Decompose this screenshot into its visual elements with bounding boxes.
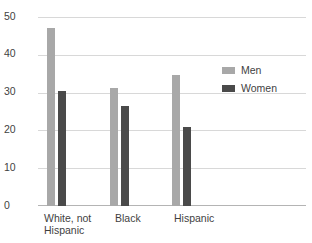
- y-tick-label-0: 0: [4, 200, 32, 211]
- legend-item-men[interactable]: Men: [222, 64, 277, 76]
- y-tick-label-50: 50: [4, 11, 32, 22]
- bar-men-white-not-hispanic[interactable]: [47, 28, 55, 206]
- y-tick-label-10: 10: [4, 162, 32, 173]
- x-axis-label-black: Black: [115, 212, 165, 224]
- bar-men-hispanic[interactable]: [172, 75, 180, 207]
- bar-women-white-not-hispanic[interactable]: [58, 91, 66, 206]
- y-tick-label-40: 40: [4, 48, 32, 59]
- y-tick-label-30: 30: [4, 86, 32, 97]
- legend-swatch-icon-women: [222, 85, 235, 92]
- legend-item-women[interactable]: Women: [222, 82, 277, 94]
- legend: Men Women: [222, 64, 277, 100]
- bar-women-hispanic[interactable]: [183, 127, 191, 206]
- bar-women-black[interactable]: [121, 106, 129, 207]
- y-tick-label-20: 20: [4, 124, 32, 135]
- legend-label-women: Women: [241, 82, 277, 94]
- plot-area: [38, 17, 306, 206]
- bar-chart: 50 40 30 20 10 0 White, not Hispanic Bla…: [0, 0, 312, 243]
- legend-swatch-icon-men: [222, 67, 235, 74]
- x-axis-label-hispanic: Hispanic: [174, 212, 234, 224]
- bars-layer: [38, 17, 306, 206]
- bar-men-black[interactable]: [110, 88, 118, 206]
- x-axis-label-white-not-hispanic: White, not Hispanic: [44, 212, 114, 236]
- legend-label-men: Men: [241, 64, 261, 76]
